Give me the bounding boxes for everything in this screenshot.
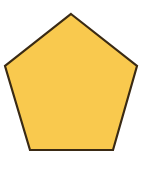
canvas: [0, 0, 146, 175]
pentagon-figure: [0, 0, 146, 175]
pentagon-shape: [5, 14, 137, 150]
